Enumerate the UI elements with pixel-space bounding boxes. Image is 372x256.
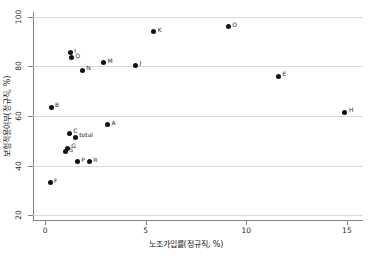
- x-tick-label: 5: [143, 226, 148, 235]
- y-tick-label: 60: [12, 110, 26, 122]
- data-point: [226, 24, 231, 29]
- data-point: [69, 55, 74, 60]
- data-point-label: P: [81, 157, 85, 163]
- y-tick-label: 100: [12, 11, 26, 23]
- data-point: [67, 131, 72, 136]
- data-point: [49, 105, 54, 110]
- data-point-label: B: [55, 102, 59, 108]
- data-point-label: N: [86, 65, 91, 71]
- data-point: [276, 74, 281, 79]
- gridline-y: [33, 215, 363, 216]
- gridline-y: [33, 166, 363, 167]
- data-point: [105, 122, 110, 127]
- data-point-label: H: [349, 107, 354, 113]
- data-point-label: J: [140, 60, 142, 66]
- x-tick-label: 0: [43, 226, 48, 235]
- x-tick-label: 15: [342, 226, 352, 235]
- data-point: [80, 68, 85, 73]
- x-tick-mark: [347, 220, 348, 225]
- y-axis-title: 보험적용여부(정규직, %): [2, 75, 13, 157]
- data-point-label: G: [71, 143, 76, 149]
- data-point: [151, 29, 156, 34]
- y-tick-label: 40: [12, 160, 26, 172]
- data-point-label: M: [107, 58, 112, 64]
- y-tick-label: 20: [12, 209, 26, 221]
- x-tick-mark: [146, 220, 147, 225]
- x-axis-line: [33, 220, 363, 221]
- data-point-label: R: [93, 157, 97, 163]
- data-point-label: Q: [75, 53, 80, 59]
- x-tick-mark: [246, 220, 247, 225]
- data-point-label: A: [111, 120, 115, 126]
- y-tick-label: 80: [12, 60, 26, 72]
- data-point-label: C: [73, 128, 77, 134]
- gridline-y: [33, 116, 363, 117]
- data-point: [87, 159, 92, 164]
- data-point: [73, 135, 78, 140]
- data-point-label: E: [282, 71, 286, 77]
- x-axis-title: 노조가입률(정규직, %): [0, 238, 372, 249]
- data-point-label: total: [79, 132, 93, 138]
- data-point-label: F: [54, 178, 57, 184]
- data-point: [342, 110, 347, 115]
- data-point: [133, 63, 138, 68]
- data-point: [101, 60, 106, 65]
- plot-area: BFSGCIQtotalPNRMAJKOEH: [33, 12, 363, 220]
- scatter-chart: 보험적용여부(정규직, %) 20406080100051015 BFSGCIQ…: [0, 0, 372, 256]
- data-point: [65, 146, 70, 151]
- data-point: [48, 180, 53, 185]
- x-tick-label: 10: [242, 226, 252, 235]
- data-point-label: O: [232, 22, 237, 28]
- x-tick-mark: [45, 220, 46, 225]
- data-point: [75, 159, 80, 164]
- gridline-y: [33, 17, 363, 18]
- data-point-label: K: [158, 27, 162, 33]
